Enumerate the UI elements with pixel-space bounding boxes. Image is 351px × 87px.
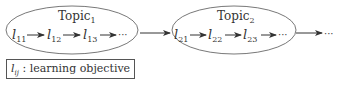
- objective-l23: l23: [243, 27, 257, 44]
- objective-l13: l13: [83, 27, 97, 44]
- objective-l22: l22: [208, 27, 222, 44]
- topic-1-title: Topic1: [58, 9, 96, 25]
- ellipsis: ···: [118, 29, 128, 40]
- ellipsis: ···: [324, 28, 334, 39]
- topic-2-title: Topic2: [217, 9, 255, 25]
- legend-box: lij : learning objective: [6, 59, 135, 79]
- objective-l21: l21: [174, 27, 188, 44]
- objective-l11: l11: [12, 27, 26, 44]
- ellipsis: ···: [278, 29, 288, 40]
- objective-l12: l12: [47, 27, 61, 44]
- legend-text: : learning objective: [19, 62, 130, 75]
